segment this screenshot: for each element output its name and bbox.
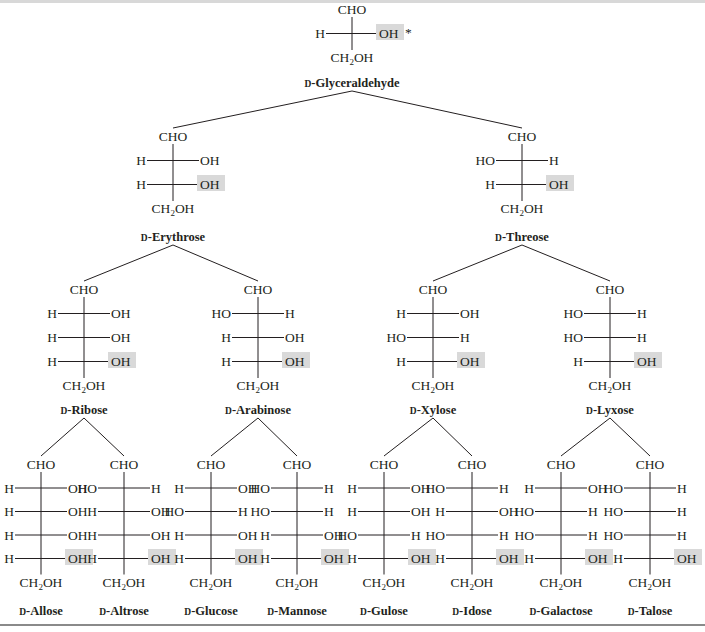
right-substituent: OH: [151, 551, 171, 566]
right-substituent: H: [324, 504, 334, 519]
left-substituent: H: [435, 504, 445, 519]
fischer-projection-erythrose: CHOHOHHOHCH2OHD-Erythrose: [136, 129, 225, 244]
lineage-edge-lyxose-to-galactose: [561, 418, 610, 456]
left-substituent: HO: [604, 528, 624, 543]
left-substituent: H: [347, 504, 357, 519]
right-substituent: OH: [549, 177, 569, 192]
left-substituent: H: [573, 354, 583, 369]
right-substituent: OH: [677, 551, 697, 566]
aldehyde-group: CHO: [508, 129, 537, 144]
right-substituent: OH: [68, 528, 88, 543]
left-substituent: HO: [564, 306, 584, 321]
aldehyde-group: CHO: [27, 457, 56, 472]
lineage-edge-erythrose-to-ribose: [84, 245, 173, 281]
left-substituent: H: [136, 177, 146, 192]
sugar-name-threose: D-Threose: [495, 230, 549, 244]
aldehyde-group: CHO: [244, 282, 273, 297]
sugar-name-ribose: D-Ribose: [60, 403, 108, 417]
aldehyde-group: CHO: [370, 457, 399, 472]
right-substituent: OH: [68, 504, 88, 519]
right-substituent: H: [499, 528, 509, 543]
hydroxymethyl-group: CH2OH: [190, 575, 233, 592]
hydroxymethyl-group: CH2OH: [152, 201, 195, 218]
right-substituent: OH: [499, 551, 519, 566]
hydroxymethyl-group: CH2OH: [412, 378, 455, 395]
aldose-family-tree-diagram: CHOHOH*CH2OHD-GlyceraldehydeCHOHOHHOHCH2…: [0, 0, 705, 632]
right-substituent: H: [588, 528, 598, 543]
left-substituent: H: [260, 551, 270, 566]
right-substituent: H: [637, 330, 647, 345]
right-substituent: H: [324, 481, 334, 496]
left-substituent: H: [4, 504, 14, 519]
left-substituent: HO: [564, 330, 584, 345]
fischer-projection-ribose: CHOHOHHOHHOHCH2OHD-Ribose: [47, 282, 136, 417]
right-substituent: OH: [238, 551, 258, 566]
right-substituent: OH: [111, 306, 131, 321]
fischer-projection-xylose: CHOHOHHOHHOHCH2OHD-Xylose: [387, 282, 486, 417]
hydroxymethyl-group: CH2OH: [20, 575, 63, 592]
lineage-edge-xylose-to-idose: [433, 418, 472, 456]
lineage-edge-threose-to-xylose: [433, 245, 522, 281]
left-substituent: HO: [476, 153, 496, 168]
right-substituent: OH: [637, 354, 657, 369]
right-substituent: OH: [200, 177, 220, 192]
right-substituent: H: [499, 481, 509, 496]
lineage-edge-ribose-to-altrose: [84, 418, 124, 456]
right-substituent: OH: [379, 26, 399, 41]
left-substituent: H: [485, 177, 495, 192]
fischer-projection-galactose: CHOHOHHOHHOHHOHCH2OHD-Galactose: [515, 457, 614, 618]
lineage-edge-arabinose-to-mannose: [258, 418, 297, 456]
left-substituent: H: [315, 26, 325, 41]
right-substituent: H: [285, 306, 295, 321]
left-substituent: H: [87, 504, 97, 519]
aldehyde-group: CHO: [547, 457, 576, 472]
fischer-projection-gulose: CHOHOHHOHHOHHOHCH2OHD-Gulose: [338, 457, 437, 618]
right-substituent: OH: [111, 330, 131, 345]
sugar-name-glyceraldehyde: D-Glyceraldehyde: [304, 76, 400, 90]
right-substituent: H: [677, 528, 687, 543]
lineage-edge-lyxose-to-talose: [610, 418, 650, 456]
left-substituent: HO: [251, 481, 271, 496]
aldehyde-group: CHO: [197, 457, 226, 472]
left-substituent: H: [396, 306, 406, 321]
right-substituent: H: [677, 481, 687, 496]
sugar-name-talose: D-Talose: [628, 604, 673, 618]
right-substituent: OH: [68, 551, 88, 566]
aldehyde-group: CHO: [338, 2, 367, 17]
aldehyde-group: CHO: [159, 129, 188, 144]
left-substituent: H: [4, 528, 14, 543]
sugar-name-lyxose: D-Lyxose: [586, 403, 634, 417]
aldehyde-group: CHO: [283, 457, 312, 472]
hydroxymethyl-group: CH2OH: [276, 575, 319, 592]
lineage-edge-glyceraldehyde-to-erythrose: [173, 91, 352, 128]
left-substituent: H: [47, 306, 57, 321]
left-substituent: H: [174, 481, 184, 496]
right-substituent: H: [588, 504, 598, 519]
right-substituent: OH: [285, 330, 305, 345]
fischer-projection-lyxose: CHOHOHHOHHOHCH2OHD-Lyxose: [564, 282, 663, 417]
left-substituent: H: [524, 481, 534, 496]
right-substituent: OH: [460, 306, 480, 321]
sugar-name-galactose: D-Galactose: [529, 604, 593, 618]
left-substituent: H: [435, 551, 445, 566]
left-substituent: H: [221, 354, 231, 369]
left-substituent: HO: [426, 528, 446, 543]
left-substituent: HO: [604, 504, 624, 519]
fischer-projection-talose: CHOHOHHOHHOHHOHCH2OHD-Talose: [604, 457, 703, 618]
left-substituent: HO: [515, 528, 535, 543]
aldehyde-group: CHO: [110, 457, 139, 472]
left-substituent: HO: [515, 504, 535, 519]
left-substituent: H: [136, 153, 146, 168]
sugar-name-glucose: D-Glucose: [184, 604, 238, 618]
hydroxymethyl-group: CH2OH: [501, 201, 544, 218]
fischer-projection-altrose: CHOHOHHOHHOHHOHCH2OHD-Altrose: [78, 457, 177, 618]
left-substituent: HO: [604, 481, 624, 496]
left-substituent: HO: [251, 504, 271, 519]
right-substituent: OH: [324, 551, 344, 566]
left-substituent: H: [524, 551, 534, 566]
right-substituent: OH: [200, 153, 220, 168]
stereocenter-asterisk: *: [405, 25, 412, 40]
sugar-name-allose: D-Allose: [19, 604, 63, 618]
fischer-projection-glyceraldehyde: CHOHOH*CH2OHD-Glyceraldehyde: [304, 2, 412, 90]
left-substituent: H: [4, 481, 14, 496]
